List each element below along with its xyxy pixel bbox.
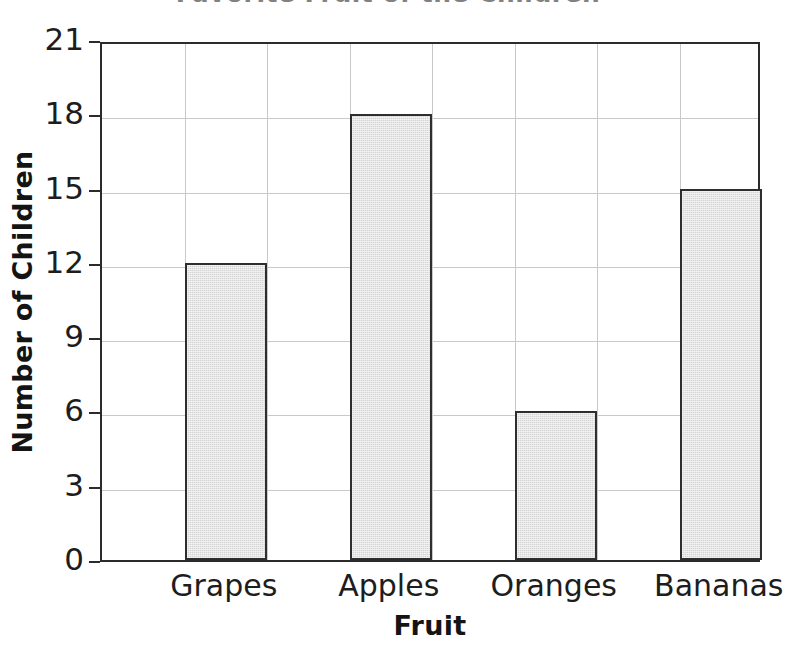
y-tick-mark [89,338,100,340]
y-tick-label: 6 [64,392,84,428]
gridline-vertical [597,44,598,560]
y-axis-label-container: Number of Children [0,42,44,562]
plot-area [100,42,760,562]
y-tick-mark [89,41,100,43]
bar-oranges [515,411,598,560]
gridline-vertical [432,44,433,560]
y-tick-label: 18 [45,95,84,131]
y-tick-mark [89,115,100,117]
y-tick-label: 12 [45,244,84,280]
x-axis-label: Fruit [100,610,760,641]
y-tick-mark [89,264,100,266]
bar-grapes [185,263,268,560]
y-tick-mark [89,190,100,192]
x-tick-label-bananas: Bananas [619,568,787,603]
y-tick-label: 3 [64,467,84,503]
bar-apples [350,114,433,560]
y-tick-label: 0 [64,541,84,577]
gridline-vertical [267,44,268,560]
y-tick-mark [89,412,100,414]
y-tick-label: 15 [45,170,84,206]
y-tick-label: 9 [64,318,84,354]
y-tick-mark [89,487,100,489]
y-axis-label: Number of Children [7,150,38,453]
y-tick-mark [89,561,100,563]
bar-bananas [680,189,763,560]
y-tick-label: 21 [45,21,84,57]
